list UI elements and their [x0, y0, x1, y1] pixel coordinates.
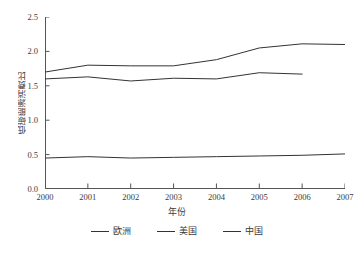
x-tick-label: 2000 [25, 192, 65, 202]
x-tick-label: 2001 [68, 192, 108, 202]
legend-item[interactable]: 欧洲 [91, 226, 131, 237]
legend-line-icon [223, 231, 241, 232]
x-tick-label: 2004 [196, 192, 236, 202]
chart-legend: 欧洲美国中国 [0, 226, 354, 237]
chart-figure: 低碳能源消费比 0.00.51.01.52.02.5 2000200120022… [0, 0, 354, 253]
series-line-1 [45, 44, 345, 72]
series-line-3 [45, 154, 345, 158]
series-line-2 [45, 73, 302, 81]
x-tick-label: 2005 [239, 192, 279, 202]
x-tick-label: 2007 [325, 192, 354, 202]
y-tick-label: 1.5 [16, 82, 38, 91]
legend-label: 欧洲 [113, 226, 131, 237]
legend-item[interactable]: 中国 [223, 226, 263, 237]
y-tick-label: 2.0 [16, 47, 38, 56]
legend-label: 中国 [245, 226, 263, 237]
x-tick-label: 2006 [282, 192, 322, 202]
y-tick-label: 2.5 [16, 13, 38, 22]
plot-svg [45, 17, 345, 189]
legend-line-icon [157, 231, 175, 232]
x-axis-tick-labels: 20002001200220032004200520062007 [0, 192, 354, 206]
plot-area [45, 17, 345, 189]
data-series [45, 44, 345, 158]
legend-item[interactable]: 美国 [157, 226, 197, 237]
y-tick-label: 0.5 [16, 150, 38, 159]
axis-ticks [45, 17, 345, 189]
axis-lines [46, 17, 346, 189]
y-tick-label: 1.0 [16, 116, 38, 125]
legend-label: 美国 [179, 226, 197, 237]
x-tick-label: 2002 [111, 192, 151, 202]
x-axis-title: 年份 [0, 207, 354, 218]
x-tick-label: 2003 [154, 192, 194, 202]
legend-line-icon [91, 231, 109, 232]
